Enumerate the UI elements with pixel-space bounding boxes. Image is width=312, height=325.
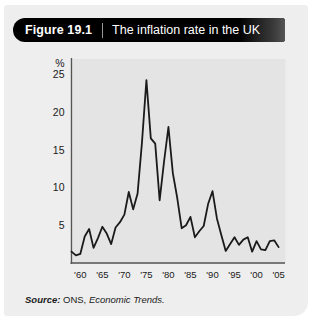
y-tick-label: 25 [53,68,65,80]
source-publication: Economic Trends. [86,294,165,305]
y-tick-label: 20 [53,106,65,118]
source-organisation: ONS, [60,294,86,305]
chart-container: 510152025 '60'65'70'75'80'85'90'95'00'05… [4,5,308,316]
source-note: Source: ONS, Economic Trends. [25,294,165,305]
plot-background [70,59,286,264]
x-tick-label: '05 [272,269,284,280]
x-tick-label: '70 [118,269,130,280]
x-tick-label: '00 [250,269,262,280]
inflation-line-chart: 510152025 '60'65'70'75'80'85'90'95'00'05… [4,5,308,316]
x-tick-label: '95 [228,269,240,280]
x-tick-label: '80 [162,269,174,280]
y-tick-label: 5 [59,219,65,231]
x-tick-label: '75 [140,269,152,280]
figure-title-label: The inflation rate in the UK [112,23,260,37]
x-tick-label: '60 [74,269,86,280]
source-label: Source: [25,294,60,305]
y-tick-label: 15 [53,144,65,156]
y-tick-label: 10 [53,181,65,193]
x-tick-label: '65 [96,269,108,280]
x-axis-tick-labels: '60'65'70'75'80'85'90'95'00'05 [74,269,285,280]
x-tick-label: '85 [184,269,196,280]
figure-card: Figure 19.1 The inflation rate in the UK… [4,5,308,316]
x-tick-label: '90 [206,269,218,280]
y-axis-tick-labels: 510152025 [53,68,65,231]
figure-number-label: Figure 19.1 [25,23,92,37]
banner-divider [102,23,103,38]
y-axis-unit-label: % [55,57,64,69]
